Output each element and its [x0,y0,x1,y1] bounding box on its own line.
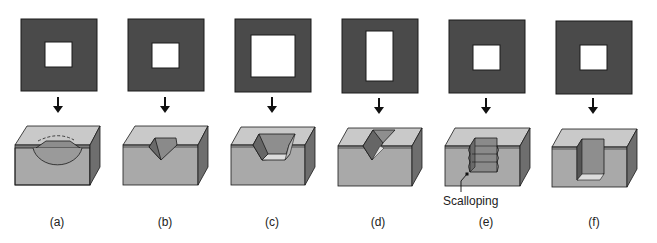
panel-label-e: (e) [466,215,506,229]
arrow-down-icon [267,97,277,113]
panel-b [123,19,208,185]
arrow-down-icon [53,97,63,113]
etch-profiles-diagram [0,0,657,243]
substrate-block-d [338,128,422,186]
arrow-down-icon [160,97,170,113]
mask-e [449,20,525,93]
panel-f [552,21,637,187]
panel-label-a: (a) [37,215,77,229]
substrate-block-f [552,129,637,187]
panel-label-d: (d) [358,215,398,229]
panel-c [231,19,315,185]
panel-label-b: (b) [145,215,185,229]
arrow-down-icon [588,98,598,114]
panel-e [445,20,530,192]
arrow-down-icon [374,98,384,114]
substrate-block-e [445,128,530,186]
substrate-block-b [123,126,208,185]
mask-a [21,19,97,91]
panel-a [15,19,100,185]
mask-c [235,19,311,92]
mask-d [342,19,418,93]
arrow-down-icon [481,98,491,114]
substrate-block-a [15,126,100,185]
mask-f [556,21,632,94]
panel-label-f: (f) [574,215,614,229]
panel-label-c: (c) [252,215,292,229]
scalloping-label: Scalloping [443,194,498,208]
mask-b [128,19,204,91]
substrate-block-c [231,127,315,185]
panel-d [338,19,422,186]
